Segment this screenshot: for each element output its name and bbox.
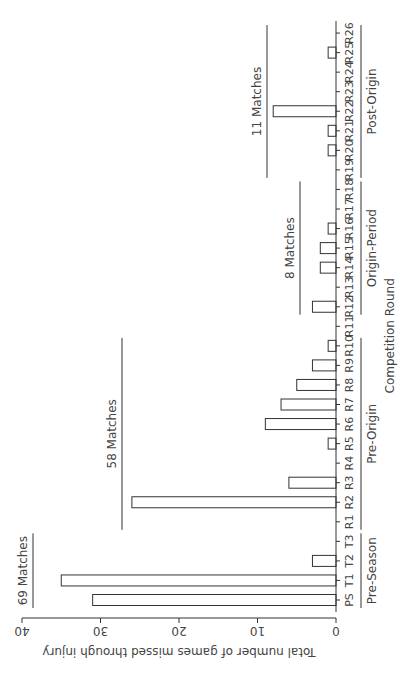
x-tick-label: R11: [343, 315, 356, 337]
x-tick-label: R3: [343, 475, 356, 490]
bar-R20: [328, 145, 336, 156]
x-tick-label: R13: [343, 276, 356, 298]
phase-matches-label: 58 Matches: [105, 399, 119, 468]
x-tick-label: R20: [343, 140, 356, 162]
rotated-chart-frame: 010203040 PST1T2T3R1R2R3R4R5R6R7R8R9R10R…: [0, 0, 407, 673]
phase-name: Post-Origin: [365, 68, 379, 134]
phase-matches-label: 69 Matches: [16, 536, 30, 605]
x-tick-label: T3: [343, 534, 356, 549]
x-tick-label: R4: [343, 456, 356, 471]
x-tick-label: R9: [343, 358, 356, 373]
bar-R25: [328, 47, 336, 58]
bar-PS: [93, 595, 336, 606]
bar-R8: [297, 379, 336, 390]
phase-matches-label: 8 Matches: [283, 217, 297, 279]
x-axis-label: Competition Round: [383, 278, 397, 393]
x-tick-label: R7: [343, 397, 356, 412]
x-tick-label: R8: [343, 378, 356, 393]
x-tick-label: R6: [343, 417, 356, 432]
y-tick-label: 10: [250, 624, 265, 638]
x-tick-label: T2: [343, 554, 356, 569]
y-axis: 010203040: [14, 618, 339, 638]
x-tick-label: R16: [343, 218, 356, 240]
x-tick-label: R26: [343, 22, 356, 44]
bar-R5: [328, 438, 336, 449]
x-tick-label: R10: [343, 335, 356, 357]
x-tick-label: R18: [343, 179, 356, 201]
bar-T1: [61, 575, 336, 586]
x-tick-label: R15: [343, 237, 356, 259]
bar-R2: [132, 497, 336, 508]
phase-name: Pre-Season: [365, 537, 379, 604]
bar-T2: [312, 555, 336, 566]
bar-R10: [328, 340, 336, 351]
bar-R3: [289, 477, 336, 488]
bar-chart: 010203040 PST1T2T3R1R2R3R4R5R6R7R8R9R10R…: [0, 0, 407, 673]
x-tick-label: R17: [343, 198, 356, 220]
y-tick-label: 0: [332, 624, 340, 638]
bar-R9: [312, 360, 336, 371]
x-tick-label: PS: [343, 593, 356, 607]
x-tick-label: R14: [343, 257, 356, 279]
bars-group: [61, 47, 336, 605]
bar-R6: [265, 419, 336, 430]
y-tick-label: 20: [171, 624, 186, 638]
bar-R15: [320, 243, 336, 254]
x-tick-label: R12: [343, 296, 356, 318]
y-axis-label: Total number of games missed through inj…: [42, 645, 316, 659]
bar-R12: [312, 301, 336, 312]
x-tick-label: R19: [343, 159, 356, 181]
phase-name: Pre-Origin: [365, 404, 379, 464]
x-tick-label: R1: [343, 514, 356, 529]
bar-R16: [328, 223, 336, 234]
x-tick-label: R22: [343, 100, 356, 122]
phase-name: Origin-Period: [365, 209, 379, 287]
phase-matches-label: 11 Matches: [250, 67, 264, 136]
x-tick-label: R25: [343, 42, 356, 64]
x-tick-label: R5: [343, 436, 356, 451]
x-axis: PST1T2T3R1R2R3R4R5R6R7R8R9R10R11R12R13R1…: [336, 21, 356, 612]
y-tick-label: 40: [14, 624, 29, 638]
bar-R14: [320, 262, 336, 273]
x-tick-label: R2: [343, 495, 356, 510]
bar-R21: [328, 125, 336, 136]
x-tick-label: T1: [343, 574, 356, 589]
bar-R7: [281, 399, 336, 410]
x-tick-label: R21: [343, 120, 356, 142]
x-tick-label: R24: [343, 61, 356, 83]
y-tick-label: 30: [93, 624, 108, 638]
bar-R22: [273, 106, 336, 117]
x-tick-label: R23: [343, 81, 356, 103]
